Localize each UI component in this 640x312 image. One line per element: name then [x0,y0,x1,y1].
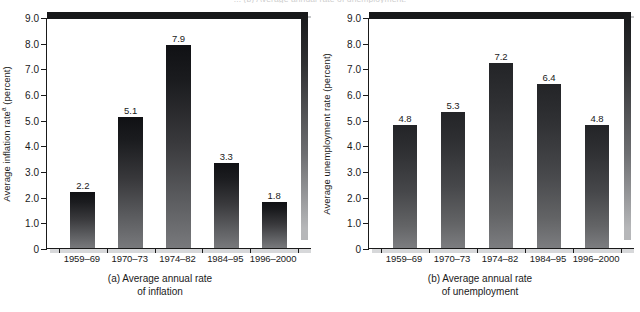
bar-inflation-4[interactable] [262,202,287,248]
y-tick-inflation-3 [41,172,47,173]
x-axis-labels-inflation: 1959–691970–731974–821984–951996–2000 [46,253,311,267]
y-tick-label-inflation-6: 6.0 [25,90,39,101]
y-tick-unemployment-0 [363,249,369,250]
y-tick-unemployment-5 [363,121,369,122]
plot-area-unemployment: 01.02.03.04.05.06.07.08.09.04.85.37.26.4… [368,18,634,249]
y-tick-unemployment-3 [363,172,369,173]
bar-inflation-3[interactable] [214,163,239,248]
bar-unemployment-3[interactable] [537,84,562,248]
y-tick-label-unemployment-0: 0 [355,244,361,255]
caption-unemployment: (b) Average annual rate of unemployment [320,272,640,298]
y-tick-label-inflation-8: 8.0 [25,38,39,49]
frame-top-band [47,12,301,19]
y-tick-label-inflation-0: 0 [33,244,39,255]
x-axis-label-unemployment-1: 1970–73 [434,253,470,264]
y-tick-unemployment-1 [363,223,369,224]
y-axis-title-unemployment: Average unemployment rate (percent) [320,18,334,250]
y-tick-label-unemployment-8: 8.0 [347,38,361,49]
chart-panel-unemployment: Average unemployment rate (percent) 01.0… [320,0,640,312]
y-tick-inflation-2 [41,198,47,199]
y-tick-unemployment-9 [363,18,369,19]
x-axis-label-unemployment-3: 1984–95 [530,253,566,264]
y-tick-label-inflation-9: 9.0 [25,13,39,24]
caption-unemployment-line2: of unemployment [320,285,640,298]
y-tick-label-inflation-4: 4.0 [25,141,39,152]
bar-inflation-2[interactable] [166,45,191,248]
y-tick-label-inflation-1: 1.0 [25,218,39,229]
y-tick-inflation-6 [41,95,47,96]
bar-value-label-unemployment-0: 4.8 [398,113,411,124]
y-tick-unemployment-2 [363,198,369,199]
frame-right-wall [301,12,308,240]
y-tick-label-unemployment-6: 6.0 [347,90,361,101]
bar-inflation-0[interactable] [70,192,95,248]
y-tick-label-unemployment-5: 5.0 [347,115,361,126]
y-tick-label-inflation-7: 7.0 [25,64,39,75]
plot-inner-inflation: 01.02.03.04.05.06.07.08.09.02.25.17.93.3… [46,18,311,249]
x-axis-label-inflation-0: 1959–69 [64,253,100,264]
y-tick-label-unemployment-7: 7.0 [347,64,361,75]
bar-value-label-inflation-0: 2.2 [76,180,89,191]
plot-inner-unemployment: 01.02.03.04.05.06.07.08.09.04.85.37.26.4… [368,18,634,249]
y-tick-unemployment-7 [363,69,369,70]
frame-top-band [369,12,624,19]
bar-value-label-unemployment-3: 6.4 [542,72,555,83]
y-tick-label-unemployment-1: 1.0 [347,218,361,229]
y-tick-label-unemployment-9: 9.0 [347,13,361,24]
y-tick-inflation-4 [41,146,47,147]
bar-value-label-inflation-1: 5.1 [124,105,137,116]
y-tick-unemployment-4 [363,146,369,147]
y-tick-inflation-9 [41,18,47,19]
y-tick-label-unemployment-3: 3.0 [347,167,361,178]
y-axis-title-units: (percent) [321,53,332,94]
y-tick-unemployment-6 [363,95,369,96]
chart-panel-inflation: Average inflation ratea (percent) 01.02.… [0,0,320,312]
x-axis-label-inflation-4: 1996–2000 [250,253,297,264]
plot-area-inflation: 01.02.03.04.05.06.07.08.09.02.25.17.93.3… [46,18,311,249]
x-axis-label-inflation-2: 1974–82 [159,253,195,264]
y-tick-label-unemployment-4: 4.0 [347,141,361,152]
y-axis-title-text: Average inflation rate [1,111,12,202]
y-axis-title-units: (percent) [1,66,12,107]
caption-inflation: (a) Average annual rate of inflation [0,272,320,298]
y-tick-label-inflation-2: 2.0 [25,192,39,203]
y-axis-title-text: Average unemployment rate [321,94,332,214]
bar-inflation-1[interactable] [118,117,143,248]
caption-inflation-line1: (a) Average annual rate [108,273,212,284]
bar-value-label-inflation-2: 7.9 [172,33,185,44]
bar-value-label-unemployment-4: 4.8 [590,113,603,124]
y-tick-inflation-5 [41,121,47,122]
caption-inflation-line2: of inflation [0,285,320,298]
y-tick-label-inflation-3: 3.0 [25,167,39,178]
x-axis-label-inflation-3: 1984–95 [207,253,243,264]
y-tick-label-unemployment-2: 2.0 [347,192,361,203]
bar-value-label-unemployment-1: 5.3 [446,100,459,111]
y-tick-inflation-0 [41,249,47,250]
y-tick-inflation-8 [41,44,47,45]
x-axis-labels-unemployment: 1959–691970–731974–821984–951996–2000 [368,253,634,267]
y-axis-title-inflation: Average inflation ratea (percent) [0,18,14,250]
y-tick-inflation-7 [41,69,47,70]
x-axis-label-unemployment-0: 1959–69 [386,253,422,264]
x-axis-label-inflation-1: 1970–73 [112,253,148,264]
bar-unemployment-1[interactable] [441,112,466,248]
y-axis-title-superscript: a [0,107,7,111]
y-tick-inflation-1 [41,223,47,224]
x-axis-label-unemployment-2: 1974–82 [482,253,518,264]
bar-value-label-inflation-4: 1.8 [267,190,280,201]
bar-unemployment-0[interactable] [393,125,418,248]
bar-unemployment-4[interactable] [585,125,610,248]
x-axis-label-unemployment-4: 1996–2000 [573,253,620,264]
figure-two-bar-charts: Average inflation ratea (percent) 01.02.… [0,0,640,312]
frame-right-wall [624,12,631,240]
bar-value-label-inflation-3: 3.3 [220,151,233,162]
bar-unemployment-2[interactable] [489,63,514,248]
y-tick-label-inflation-5: 5.0 [25,115,39,126]
y-tick-unemployment-8 [363,44,369,45]
bar-value-label-unemployment-2: 7.2 [494,51,507,62]
caption-unemployment-line1: (b) Average annual rate [428,273,532,284]
